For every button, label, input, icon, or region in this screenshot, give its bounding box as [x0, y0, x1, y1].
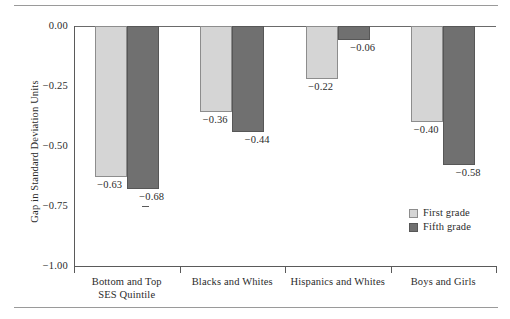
bar-value-label: −0.22: [305, 82, 337, 93]
x-axis-group-label-line: Hispanics and Whites: [285, 275, 391, 288]
y-axis-tick-mark: [142, 266, 149, 267]
dark-gray-swatch-icon: [409, 223, 418, 232]
top-rule-divider: [14, 5, 498, 6]
bar-value-label: −0.06: [341, 43, 385, 54]
y-axis-tick-label: −0.25: [28, 81, 74, 92]
y-axis-tick-mark: [142, 206, 149, 207]
figure-bar-chart: Gap in Standard Deviation Units 0.00−0.2…: [0, 0, 510, 319]
x-axis-tick-mark: [74, 266, 75, 273]
x-axis-group-label-line: SES Quintile: [74, 288, 180, 301]
bar-first-grade-group-4: [411, 26, 443, 122]
x-axis-group-label-3: Hispanics and Whites: [285, 275, 391, 288]
y-axis-line: [74, 26, 75, 267]
bar-first-grade-group-2: [200, 26, 232, 112]
light-gray-swatch-icon: [409, 209, 418, 218]
x-axis-group-label-1: Bottom and TopSES Quintile: [74, 275, 180, 301]
x-axis-group-label-line: Boys and Girls: [391, 275, 497, 288]
legend-label: Fifth grade: [423, 220, 471, 234]
x-axis-tick-mark: [496, 266, 497, 273]
bar-value-label: −0.68: [130, 192, 174, 203]
y-axis-tick-label: −1.00: [28, 261, 74, 272]
legend-label: First grade: [423, 206, 470, 220]
bar-value-label: −0.58: [446, 168, 490, 179]
x-axis-tick-mark: [180, 266, 181, 273]
x-axis-group-label-4: Boys and Girls: [391, 275, 497, 288]
x-axis-group-label-line: Bottom and Top: [74, 275, 180, 288]
legend-item-fifth-grade: Fifth grade: [409, 220, 471, 234]
bar-fifth-grade-group-1: [127, 26, 159, 189]
y-axis-tick-label: −0.75: [28, 201, 74, 212]
bar-value-label: −0.63: [94, 180, 126, 191]
bar-value-label: −0.36: [199, 115, 231, 126]
bottom-rule-divider: [14, 307, 498, 308]
x-axis-tick-mark: [391, 266, 392, 273]
x-axis-group-label-2: Blacks and Whites: [180, 275, 286, 288]
x-axis-tick-mark: [285, 266, 286, 273]
legend-item-first-grade: First grade: [409, 206, 471, 220]
x-axis-group-label-line: Blacks and Whites: [180, 275, 286, 288]
bar-fifth-grade-group-4: [443, 26, 475, 165]
bar-value-label: −0.44: [235, 135, 279, 146]
bar-value-label: −0.40: [410, 125, 442, 136]
bar-first-grade-group-1: [95, 26, 127, 177]
bar-fifth-grade-group-2: [232, 26, 264, 132]
bar-first-grade-group-3: [306, 26, 338, 79]
y-axis-tick-label: −0.50: [28, 141, 74, 152]
chart-legend: First grade Fifth grade: [409, 206, 471, 234]
bar-fifth-grade-group-3: [338, 26, 370, 40]
y-axis-tick-label: 0.00: [28, 21, 74, 32]
y-axis-title: Gap in Standard Deviation Units: [29, 42, 40, 262]
